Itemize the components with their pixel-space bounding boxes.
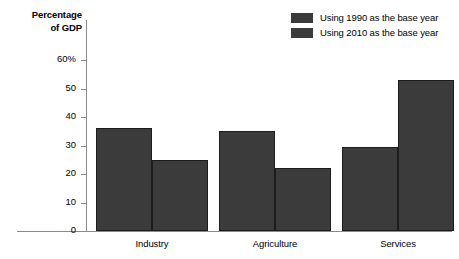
y-tick-label-20: 20 xyxy=(65,167,76,178)
bar-services-2010 xyxy=(398,80,454,231)
y-tick-mark-50 xyxy=(81,89,86,90)
chart-legend: Using 1990 as the base year Using 2010 a… xyxy=(291,10,438,40)
y-tick-mark-30 xyxy=(81,146,86,147)
y-tick-mark-40 xyxy=(81,117,86,118)
legend-swatch-icon-2010 xyxy=(291,28,313,38)
x-axis-label-services: Services xyxy=(342,238,454,249)
x-axis-label-agriculture: Agriculture xyxy=(219,238,331,249)
bar-agriculture-2010 xyxy=(275,168,331,231)
y-axis-title-line2: of GDP xyxy=(6,22,82,35)
y-tick-label-50: 50 xyxy=(65,82,76,93)
y-tick-mark-0 xyxy=(81,231,86,232)
bar-industry-1990 xyxy=(96,128,152,231)
y-tick-label-40: 40 xyxy=(65,110,76,121)
bar-services-1990 xyxy=(342,147,398,231)
bar-chart: Percentage of GDP Using 1990 as the base… xyxy=(0,0,459,259)
legend-item-1990: Using 1990 as the base year xyxy=(291,10,438,25)
bar-agriculture-1990 xyxy=(219,131,275,231)
y-tick-label-10: 10 xyxy=(65,196,76,207)
y-tick-mark-10 xyxy=(81,203,86,204)
x-axis-label-industry: Industry xyxy=(96,238,208,249)
bar-industry-2010 xyxy=(152,160,208,231)
y-axis-title-line1: Percentage xyxy=(6,9,82,22)
y-tick-label-30: 30 xyxy=(65,139,76,150)
y-tick-mark-20 xyxy=(81,174,86,175)
legend-item-2010: Using 2010 as the base year xyxy=(291,25,438,40)
legend-label-1990: Using 1990 as the base year xyxy=(320,12,438,23)
y-tick-mark-60 xyxy=(81,60,86,61)
y-axis-line xyxy=(86,20,87,231)
y-tick-label-60: 60% xyxy=(57,53,76,64)
legend-swatch-icon-1990 xyxy=(291,13,313,23)
y-tick-label-0: 0 xyxy=(71,224,76,235)
legend-label-2010: Using 2010 as the base year xyxy=(320,27,438,38)
y-axis-title: Percentage of GDP xyxy=(6,9,82,34)
